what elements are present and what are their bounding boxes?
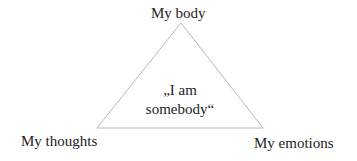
vertex-label-emotions: My emotions	[254, 136, 334, 151]
center-label-line1: „I am	[130, 81, 230, 100]
vertex-label-thoughts: My thoughts	[21, 134, 97, 149]
center-label: „I am somebody“	[130, 81, 230, 119]
vertex-label-body: My body	[151, 6, 206, 21]
center-label-line2: somebody“	[130, 100, 230, 119]
